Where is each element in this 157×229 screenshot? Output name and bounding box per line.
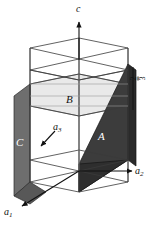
intercept-fraction-two-thirds: 2 3	[130, 77, 147, 81]
plane-label-A: A	[98, 131, 105, 142]
axis-label-a1: a1	[4, 207, 13, 219]
hexagonal-prism-drawing	[0, 0, 157, 229]
plane-label-C: C	[16, 137, 23, 148]
axis-label-a3: a3	[53, 122, 62, 134]
axis-label-a2: a2	[135, 166, 144, 178]
crystal-structure-figure: c a2 a3 a1 A B C 2 3	[0, 0, 157, 229]
plane-label-B: B	[66, 94, 73, 105]
axis-label-c: c	[76, 4, 80, 16]
